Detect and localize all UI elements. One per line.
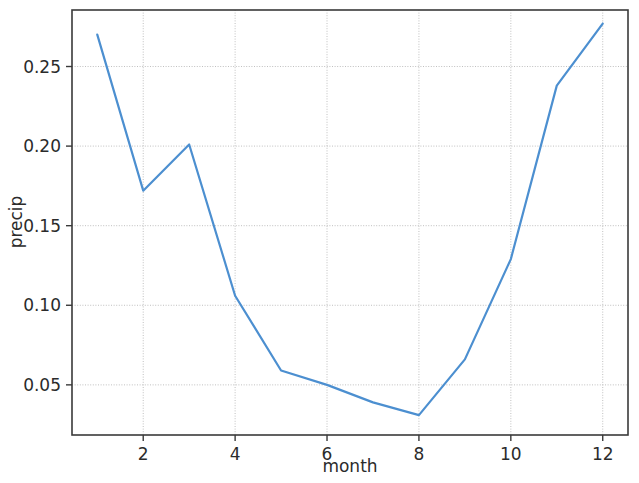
y-axis-title: precip bbox=[6, 196, 26, 249]
precip-by-month-line-chart: 24681012 0.050.100.150.200.25 month prec… bbox=[0, 0, 639, 483]
plot-area-background bbox=[72, 10, 628, 435]
x-tick-label: 2 bbox=[138, 444, 149, 464]
y-tick-label: 0.05 bbox=[23, 375, 61, 395]
y-tick-label: 0.15 bbox=[23, 216, 61, 236]
y-tick-label: 0.20 bbox=[23, 136, 61, 156]
x-tick-label: 12 bbox=[592, 444, 614, 464]
x-tick-label: 10 bbox=[500, 444, 522, 464]
y-tick-label: 0.25 bbox=[23, 57, 61, 77]
y-tick-label: 0.10 bbox=[23, 295, 61, 315]
x-axis-title: month bbox=[322, 456, 377, 476]
chart-figure: 24681012 0.050.100.150.200.25 month prec… bbox=[0, 0, 639, 483]
x-tick-label: 8 bbox=[414, 444, 425, 464]
x-tick-label: 4 bbox=[230, 444, 241, 464]
